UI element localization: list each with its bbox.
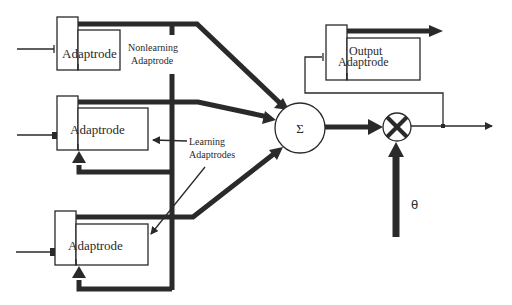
multiply-node — [383, 113, 411, 141]
theta-symbol: θ — [411, 197, 418, 212]
adaptrode-outer-box — [57, 17, 78, 70]
learning-pointer-bottom — [151, 167, 205, 234]
adaptrode-label: Adaptrode — [68, 238, 123, 253]
sum-to-multiply-arrowhead — [368, 119, 383, 135]
adaptrode-diagram: Adaptrode Nonlearning Adaptrode Adaptrod… — [0, 0, 512, 305]
bottom-feedback-line — [79, 280, 172, 289]
middle-feedback-line — [79, 165, 172, 172]
input-terminal — [52, 132, 57, 139]
bottom-output-line — [76, 153, 275, 217]
adaptrode-label: Adaptrode — [62, 46, 117, 61]
nonlearning-label-2: Adaptrode — [131, 55, 174, 66]
input-terminal — [50, 248, 55, 256]
adaptrode-bottom: Adaptrode — [16, 147, 283, 289]
adaptrode-label: Adaptrode — [70, 122, 125, 137]
summation-node: Σ — [275, 103, 325, 153]
adaptrode-middle: Adaptrode — [17, 96, 276, 172]
learning-pointer-middle — [153, 140, 187, 141]
middle-arrowhead — [262, 111, 276, 124]
adaptrode-output: Output Adaptrode — [326, 25, 443, 80]
output-adaptrode-label-2: Adaptrode — [338, 55, 389, 69]
learning-label-1: Learning — [189, 136, 225, 147]
learning-label-2: Adaptrodes — [189, 149, 235, 160]
threshold-arrowhead — [388, 142, 404, 157]
output-adaptrode-arrowhead — [429, 25, 443, 37]
middle-feedback-arrowhead — [72, 151, 86, 163]
bottom-feedback-arrowhead — [72, 266, 86, 278]
adaptrode-outer-box — [326, 25, 347, 80]
sigma-symbol: Σ — [296, 121, 304, 136]
nonlearning-label-1: Nonlearning — [128, 42, 178, 53]
